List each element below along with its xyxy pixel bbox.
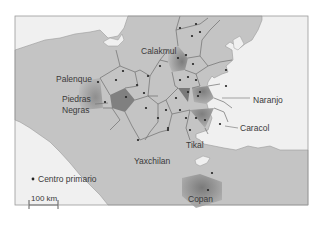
scale-bar-label: 100 km [31,195,57,203]
legend-primary-center: Centro primario [38,175,97,184]
legend-dot [32,178,35,181]
label-tikal: Tikal [186,141,204,150]
label-yaxchilan: Yaxchilan [134,157,170,166]
label-caracol: Caracol [240,124,269,133]
label-piedras-negras-2: Negras [62,106,89,115]
label-naranjo: Naranjo [253,96,283,105]
label-copan: Copan [188,195,213,204]
label-palenque: Palenque [56,75,92,84]
label-piedras-negras-1: Piedras [62,95,91,104]
label-calakmul: Calakmul [141,47,176,56]
